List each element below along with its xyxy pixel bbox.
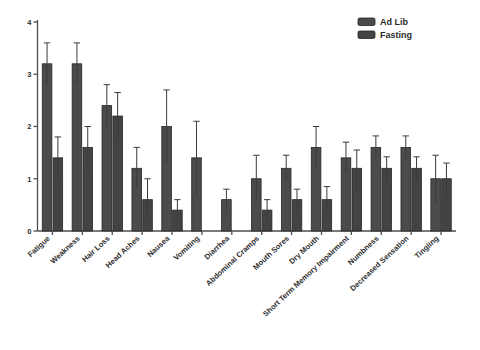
y-axis-tick-label: 2 [27, 122, 31, 131]
bar-ad-lib [42, 64, 52, 231]
y-axis-tick-label: 3 [27, 70, 31, 79]
bar-ad-lib [72, 64, 82, 231]
bar-ad-lib [371, 147, 381, 231]
legend-swatch-ad-lib [358, 18, 375, 26]
legend-label-fasting: Fasting [380, 30, 412, 40]
bar-chart-figure: 01234 FatigueWeaknessHair LossHead Aches… [0, 0, 480, 350]
y-axis-tick-label: 0 [27, 227, 31, 236]
y-axis-tick-label: 1 [27, 175, 31, 184]
bar-ad-lib [401, 147, 411, 231]
legend-swatch-fasting [358, 31, 375, 39]
chart-canvas: 01234 FatigueWeaknessHair LossHead Aches… [0, 0, 480, 350]
legend-label-ad-lib: Ad Lib [380, 17, 408, 27]
